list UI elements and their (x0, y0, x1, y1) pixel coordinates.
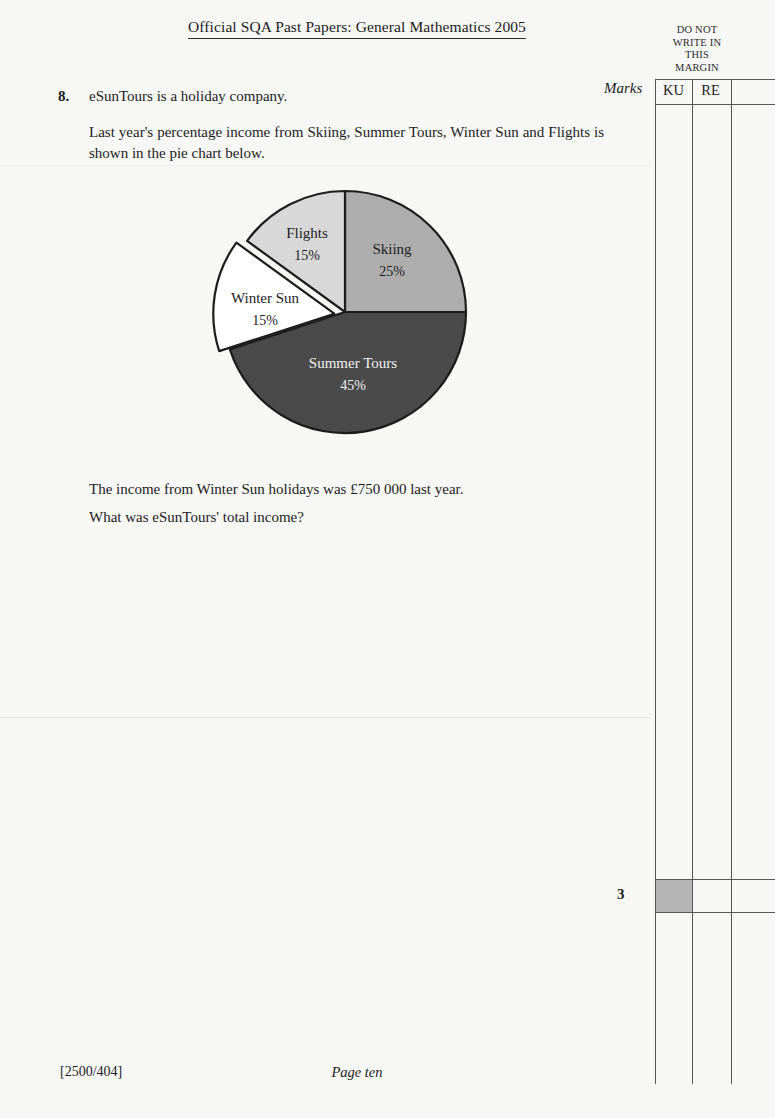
pie-chart-svg: Skiing 25% Summer Tours 45% Winter Sun 1… (200, 172, 500, 452)
scan-rule-lower (0, 717, 650, 718)
question-given-income: The income from Winter Sun holidays was … (89, 481, 463, 498)
question-prompt: What was eSunTours' total income? (89, 509, 304, 526)
question-description: Last year's percentage income from Skiin… (89, 122, 604, 164)
marks-column-header-re: RE (692, 82, 729, 99)
question-number: 8. (58, 88, 69, 105)
marks-column-label: Marks (604, 80, 642, 97)
margin-note-line-3: THIS (652, 49, 742, 62)
marks-table-divider-right (731, 79, 732, 1084)
pie-label-winter-sun-pct: 15% (252, 313, 278, 328)
pie-label-skiing-name: Skiing (372, 241, 412, 257)
pie-label-skiing-pct: 25% (379, 264, 405, 279)
pie-label-flights-name: Flights (286, 225, 328, 241)
pie-label-flights-pct: 15% (294, 248, 320, 263)
marks-table-header-border (655, 104, 775, 105)
question-mark-value: 3 (617, 886, 625, 903)
marks-column-header-ku: KU (655, 82, 692, 99)
margin-note-line-4: MARGIN (652, 62, 742, 75)
marks-table: KU RE (655, 79, 775, 1084)
pie-label-summer-tours-pct: 45% (340, 378, 366, 393)
pie-chart: Skiing 25% Summer Tours 45% Winter Sun 1… (200, 172, 500, 452)
footer-page-label: Page ten (0, 1064, 714, 1081)
margin-warning-note: DO NOT WRITE IN THIS MARGIN (652, 24, 742, 74)
page-header: Official SQA Past Papers: General Mathem… (0, 18, 714, 39)
pie-label-summer-tours-name: Summer Tours (309, 355, 397, 371)
ku-mark-cell[interactable] (656, 880, 692, 912)
header-title-text: Official SQA Past Papers: General Mathem… (188, 18, 526, 39)
pie-label-winter-sun-name: Winter Sun (231, 290, 300, 306)
marks-table-top-border (655, 79, 775, 80)
mark-row-bottom-rule (655, 912, 775, 913)
margin-note-line-1: DO NOT (652, 24, 742, 37)
marks-table-divider-left (655, 79, 656, 1084)
marks-table-divider-middle (692, 79, 693, 1084)
question-intro-line: eSunTours is a holiday company. (89, 88, 287, 105)
scan-rule-upper (0, 165, 650, 166)
margin-note-line-2: WRITE IN (652, 37, 742, 50)
